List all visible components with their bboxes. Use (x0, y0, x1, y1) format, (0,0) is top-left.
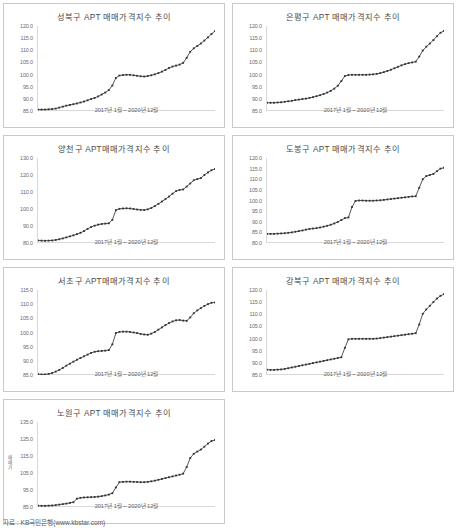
y-axis-tick: 130.0 (20, 155, 33, 161)
series-line (267, 26, 444, 111)
chart-frame: 성북구 APT 매매가격지수 추이 120.0115.0110.0105.010… (3, 3, 225, 128)
y-axis-tick: 110.0 (20, 301, 33, 307)
plot-area (267, 158, 444, 243)
y-axis-tick: 105.0 (249, 187, 262, 193)
chart-frame: 강북구 APT 매매가격지수 추이 120.0115.0110.0105.010… (232, 267, 454, 392)
chart-frame: 도봉구 APT 매매가격지수 추이 120.0115.0110.0105.010… (232, 135, 454, 260)
y-axis-tick: 105.0 (20, 470, 33, 476)
chart-frame: 노원구 APT 매매가격지수 추이 매매가 135.0125.0115.0105… (3, 399, 225, 524)
chart-grid: 성북구 APT 매매가격지수 추이 120.0115.0110.0105.010… (0, 0, 458, 528)
y-axis-tick: 90.0 (252, 219, 262, 225)
y-axis-tick: 95.0 (252, 208, 262, 214)
series-line (38, 26, 215, 111)
chart-frame: 은평구 APT 매매가격지수 추이 120.0115.0110.0105.010… (232, 3, 454, 128)
y-axis-tick: 95.0 (252, 348, 262, 354)
y-axis-tick: 120.0 (249, 155, 262, 161)
y-axis: 115.0110.0105.0100.095.090.085.0 (4, 290, 35, 375)
y-axis-tick: 85.0 (252, 372, 262, 378)
plot-area (38, 158, 215, 243)
y-axis-tick: 120.0 (249, 287, 262, 293)
y-axis-tick: 105.0 (20, 315, 33, 321)
chart-panel-0: 성북구 APT 매매가격지수 추이 120.0115.0110.0105.010… (0, 0, 229, 132)
chart-frame: 서초구 APT매매가격지수 추이 115.0110.0105.0100.095.… (3, 267, 225, 392)
y-axis-tick: 90.0 (23, 358, 33, 364)
y-axis-tick: 80.0 (252, 240, 262, 246)
y-axis-tick: 120.0 (20, 23, 33, 29)
y-axis-tick: 105.0 (249, 323, 262, 329)
y-axis: 135.0125.0115.0105.095.085.0 (4, 422, 35, 507)
y-axis: 120.0115.0110.0105.0100.095.090.085.080.… (233, 158, 264, 243)
y-axis-tick: 115.0 (20, 287, 33, 293)
chart-panel-1: 은평구 APT 매매가격지수 추이 120.0115.0110.0105.010… (229, 0, 458, 132)
x-axis-caption: 2017년 1월 ~ 2020년 12월 (38, 370, 215, 378)
chart-panel-6: 노원구 APT 매매가격지수 추이 매매가 135.0125.0115.0105… (0, 396, 229, 528)
series-line (38, 158, 215, 243)
y-axis-tick: 115.0 (249, 299, 262, 305)
plot-area (267, 290, 444, 375)
chart-title: 양천구 APT매매가격지수 추이 (4, 142, 224, 154)
y-axis-tick: 110.0 (20, 47, 33, 53)
y-axis-tick: 100.0 (249, 198, 262, 204)
y-axis-tick: 120.0 (249, 23, 262, 29)
series-line (38, 422, 215, 507)
series-line (267, 290, 444, 375)
chart-title: 은평구 APT 매매가격지수 추이 (233, 10, 453, 22)
y-axis-tick: 80.0 (23, 240, 33, 246)
chart-title: 강북구 APT 매매가격지수 추이 (233, 274, 453, 286)
chart-panel-4: 서초구 APT매매가격지수 추이 115.0110.0105.0100.095.… (0, 264, 229, 396)
y-axis-tick: 85.0 (252, 229, 262, 235)
y-axis-tick: 100.0 (249, 336, 262, 342)
empty-cell (229, 396, 458, 528)
series-line (267, 158, 444, 243)
y-axis-tick: 90.0 (252, 360, 262, 366)
chart-title: 서초구 APT매매가격지수 추이 (4, 274, 224, 286)
y-axis-tick: 95.0 (23, 84, 33, 90)
y-axis-tick: 85.0 (23, 108, 33, 114)
y-axis-tick: 100.0 (20, 72, 33, 78)
y-axis-tick: 115.0 (249, 166, 262, 172)
y-axis: 120.0115.0110.0105.0100.095.090.085.0 (233, 26, 264, 111)
y-axis-tick: 110.0 (20, 189, 33, 195)
y-axis: 120.0115.0110.0105.0100.095.090.085.0 (4, 26, 35, 111)
y-axis-tick: 90.0 (252, 96, 262, 102)
y-axis-tick: 110.0 (249, 176, 262, 182)
y-axis-tick: 120.0 (20, 172, 33, 178)
plot-area (38, 422, 215, 507)
y-axis-tick: 125.0 (20, 436, 33, 442)
y-axis-tick: 115.0 (20, 453, 33, 459)
y-axis: 120.0115.0110.0105.0100.095.090.085.0 (233, 290, 264, 375)
series-line (38, 290, 215, 375)
y-axis-tick: 95.0 (252, 84, 262, 90)
plot-area (267, 26, 444, 111)
y-axis-tick: 95.0 (23, 344, 33, 350)
source-note: 자료 : KB국민은행(www.kbstar.com) (3, 517, 105, 527)
y-axis-tick: 115.0 (249, 35, 262, 41)
y-axis-tick: 90.0 (23, 223, 33, 229)
y-axis-tick: 135.0 (20, 419, 33, 425)
y-axis-tick: 100.0 (20, 206, 33, 212)
plot-area (38, 290, 215, 375)
chart-title: 도봉구 APT 매매가격지수 추이 (233, 142, 453, 154)
y-axis: 130.0120.0110.0100.090.080.0 (4, 158, 35, 243)
chart-panel-5: 강북구 APT 매매가격지수 추이 120.0115.0110.0105.010… (229, 264, 458, 396)
y-axis-tick: 85.0 (23, 372, 33, 378)
x-axis-caption: 2017년 1월 ~ 2020년 12월 (267, 370, 444, 378)
x-axis-caption: 2017년 1월 ~ 2020년 12월 (38, 106, 215, 114)
chart-panel-3: 도봉구 APT 매매가격지수 추이 120.0115.0110.0105.010… (229, 132, 458, 264)
plot-area (38, 26, 215, 111)
y-axis-tick: 100.0 (20, 330, 33, 336)
chart-title: 성북구 APT 매매가격지수 추이 (4, 10, 224, 22)
x-axis-caption: 2017년 1월 ~ 2020년 12월 (38, 502, 215, 510)
y-axis-tick: 105.0 (20, 59, 33, 65)
y-axis-tick: 105.0 (249, 59, 262, 65)
y-axis-tick: 90.0 (23, 96, 33, 102)
y-axis-tick: 110.0 (249, 311, 262, 317)
chart-panel-2: 양천구 APT매매가격지수 추이 130.0120.0110.0100.090.… (0, 132, 229, 264)
y-axis-tick: 85.0 (252, 108, 262, 114)
x-axis-caption: 2017년 1월 ~ 2020년 12월 (267, 238, 444, 246)
y-axis-tick: 100.0 (249, 72, 262, 78)
x-axis-caption: 2017년 1월 ~ 2020년 12월 (38, 238, 215, 246)
chart-title: 노원구 APT 매매가격지수 추이 (4, 406, 224, 418)
x-axis-caption: 2017년 1월 ~ 2020년 12월 (267, 106, 444, 114)
y-axis-tick: 85.0 (23, 504, 33, 510)
